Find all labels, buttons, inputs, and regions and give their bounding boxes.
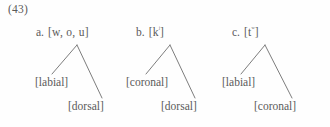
tree-b-right-branch: [170, 45, 195, 98]
tree-b-left-branch: [146, 45, 170, 74]
figure-root: (43) a.[w, o, u] [labial] [dorsal] b.[kʲ…: [0, 0, 330, 127]
tree-a-node-labial: [labial]: [35, 76, 68, 88]
tree-c-left-branch: [241, 45, 265, 74]
feature-tree-b: b.[kʲ] [coronal] [dorsal]: [128, 0, 233, 127]
feature-tree-c: c.[tʷ] [labial] [coronal]: [222, 0, 330, 127]
feature-tree-a: a.[w, o, u] [labial] [dorsal]: [30, 0, 140, 127]
tree-a-right-branch: [77, 45, 102, 98]
tree-b-node-coronal: [coronal]: [126, 76, 168, 88]
tree-c-node-coronal: [coronal]: [254, 100, 296, 112]
tree-a-node-dorsal: [dorsal]: [68, 100, 104, 112]
example-number: (43): [8, 3, 28, 15]
tree-c-right-branch: [265, 45, 292, 98]
tree-a-left-branch: [52, 45, 77, 74]
tree-c-node-labial: [labial]: [222, 76, 255, 88]
tree-b-node-dorsal: [dorsal]: [161, 100, 197, 112]
